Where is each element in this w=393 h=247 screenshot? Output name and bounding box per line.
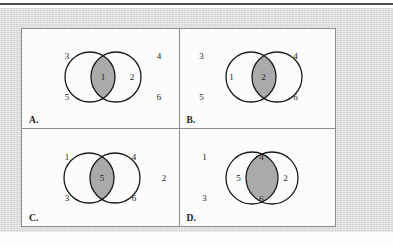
venn-number: 1 (101, 73, 106, 82)
venn-number: 5 (100, 173, 105, 182)
option-label-d: D. (187, 213, 197, 223)
venn-number: 6 (293, 93, 298, 102)
venn-number: 1 (202, 152, 207, 161)
venn-number: 3 (202, 193, 207, 202)
venn-number: 6 (132, 193, 137, 202)
venn-number: 5 (199, 93, 204, 102)
venn-number: 3 (65, 193, 70, 202)
figure-page: 3 5 1 2 4 6 A. (0, 0, 393, 247)
venn-number: 2 (283, 173, 288, 182)
venn-number: 4 (259, 152, 264, 161)
venn-number: 4 (132, 152, 137, 161)
venn-number: 1 (65, 152, 70, 161)
venn-number: 4 (157, 52, 162, 61)
venn-number: 5 (65, 93, 70, 102)
venn-diagram-d (180, 129, 336, 227)
venn-number: 1 (229, 73, 234, 82)
venn-number: 5 (236, 173, 241, 182)
option-cell-b[interactable]: 3 5 1 2 4 6 B. (179, 29, 336, 128)
venn-number: 3 (199, 52, 204, 61)
option-cell-c[interactable]: 1 3 5 4 6 2 C. (22, 128, 179, 227)
venn-number: 2 (130, 73, 135, 82)
venn-number: 4 (293, 52, 298, 61)
top-horizontal-rule (0, 3, 393, 5)
venn-number: 2 (162, 173, 167, 182)
venn-options-panel: 3 5 1 2 4 6 A. (21, 28, 336, 227)
venn-number: 2 (261, 73, 266, 82)
option-cell-d[interactable]: 1 3 5 4 6 2 D. (179, 128, 336, 227)
option-label-a: A. (29, 115, 39, 125)
venn-number: 6 (259, 194, 264, 203)
options-grid: 3 5 1 2 4 6 A. (22, 29, 335, 226)
venn-number: 3 (65, 52, 70, 61)
venn-diagram-b (180, 29, 336, 127)
bottom-white-strip (0, 232, 393, 247)
option-label-c: C. (29, 213, 39, 223)
option-cell-a[interactable]: 3 5 1 2 4 6 A. (22, 29, 179, 128)
venn-number: 6 (157, 93, 162, 102)
option-label-b: B. (187, 115, 196, 125)
